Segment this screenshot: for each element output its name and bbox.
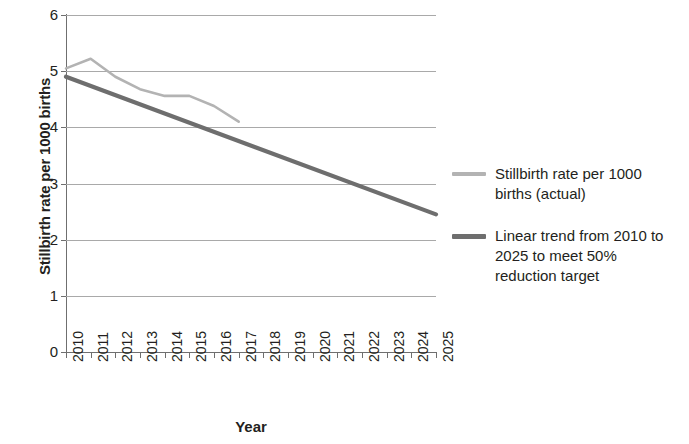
y-tick-label: 5 <box>36 63 58 78</box>
x-tick-mark <box>387 352 388 358</box>
chart-legend: Stillbirth rate per 1000 births (actual)… <box>452 164 682 308</box>
legend-label-trend-line3: reduction target <box>495 267 599 284</box>
legend-swatch-trend-icon <box>452 234 486 239</box>
x-tick-mark <box>214 352 215 358</box>
x-tick-mark <box>411 352 412 358</box>
x-tick-label: 2020 <box>318 331 332 362</box>
y-tick-label: 4 <box>36 119 58 134</box>
x-tick-mark <box>362 352 363 358</box>
legend-label-actual-line2: births (actual) <box>495 185 586 202</box>
legend-label-actual: Stillbirth rate per 1000 births (actual) <box>495 164 642 204</box>
x-tick-label: 2025 <box>441 331 455 362</box>
x-tick-mark <box>239 352 240 358</box>
x-tick-label: 2018 <box>268 331 282 362</box>
y-tick-label: 0 <box>36 344 58 359</box>
legend-label-trend: Linear trend from 2010 to 2025 to meet 5… <box>495 226 663 286</box>
x-tick-mark <box>189 352 190 358</box>
x-tick-label: 2014 <box>170 331 184 362</box>
x-tick-label: 2012 <box>120 331 134 362</box>
plot-area <box>66 15 436 352</box>
y-tick-label: 3 <box>36 176 58 191</box>
y-tick-label: 6 <box>36 7 58 22</box>
series-line-trend <box>66 77 436 215</box>
legend-swatch-actual-icon <box>452 172 486 176</box>
x-tick-mark <box>91 352 92 358</box>
x-tick-mark <box>165 352 166 358</box>
legend-label-trend-line1: Linear trend from 2010 to <box>495 227 663 244</box>
legend-item-actual: Stillbirth rate per 1000 births (actual) <box>452 164 682 204</box>
x-axis-title: Year <box>66 418 436 435</box>
x-tick-mark <box>313 352 314 358</box>
x-tick-mark <box>337 352 338 358</box>
x-tick-label: 2022 <box>367 331 381 362</box>
legend-label-trend-line2: 2025 to meet 50% <box>495 247 617 264</box>
series-lines <box>66 15 436 352</box>
x-tick-mark <box>263 352 264 358</box>
x-tick-label: 2015 <box>194 331 208 362</box>
x-tick-mark <box>436 352 437 358</box>
legend-label-actual-line1: Stillbirth rate per 1000 <box>495 165 642 182</box>
x-tick-label: 2024 <box>416 331 430 362</box>
x-tick-label: 2023 <box>392 331 406 362</box>
x-tick-label: 2010 <box>71 331 85 362</box>
x-tick-mark <box>66 352 67 358</box>
x-tick-label: 2013 <box>145 331 159 362</box>
series-line-actual <box>66 59 239 122</box>
y-tick-label: 2 <box>36 232 58 247</box>
legend-item-trend: Linear trend from 2010 to 2025 to meet 5… <box>452 226 682 286</box>
x-tick-mark <box>115 352 116 358</box>
x-tick-label: 2016 <box>219 331 233 362</box>
x-tick-label: 2021 <box>342 331 356 362</box>
x-tick-label: 2011 <box>96 332 110 362</box>
x-tick-label: 2017 <box>244 331 258 362</box>
stillbirth-rate-line-chart: Stillbirth rate per 1000 births 0123456 … <box>0 0 689 444</box>
x-tick-label: 2019 <box>293 331 307 362</box>
x-tick-mark <box>140 352 141 358</box>
y-tick-label: 1 <box>36 288 58 303</box>
x-tick-mark <box>288 352 289 358</box>
